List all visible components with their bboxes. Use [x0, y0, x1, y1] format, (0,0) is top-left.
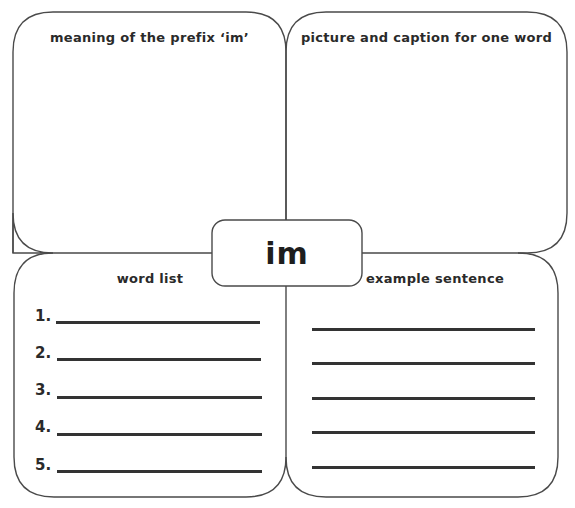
example-sentence-line-3[interactable] — [312, 397, 535, 400]
word-list-number: 4. — [35, 418, 55, 436]
panel-top-right-outline — [13, 12, 567, 253]
word-list-number: 2. — [35, 344, 55, 362]
example-sentence-line-5[interactable] — [312, 466, 535, 469]
word-list-line-3[interactable] — [57, 396, 262, 399]
example-sentence-line-2[interactable] — [312, 362, 535, 365]
word-list-line-5[interactable] — [57, 470, 262, 473]
example-sentence-line-1[interactable] — [312, 328, 535, 331]
panel-title-example-sentence: example sentence — [366, 271, 486, 286]
example-sentence-line-4[interactable] — [312, 431, 535, 434]
panel-top-left-outline — [13, 12, 286, 253]
panel-bottom-right-outline — [286, 253, 558, 497]
panel-title-picture-caption: picture and caption for one word — [286, 30, 567, 45]
word-list-line-1[interactable] — [56, 321, 260, 324]
word-list-number: 3. — [35, 381, 55, 399]
panel-title-meaning: meaning of the prefix ‘im’ — [13, 30, 286, 45]
word-list-line-4[interactable] — [57, 433, 262, 436]
center-prefix-label: im — [212, 220, 362, 286]
word-list-number: 1. — [35, 307, 55, 325]
word-list-number: 5. — [35, 456, 55, 474]
word-list-line-2[interactable] — [57, 358, 261, 361]
